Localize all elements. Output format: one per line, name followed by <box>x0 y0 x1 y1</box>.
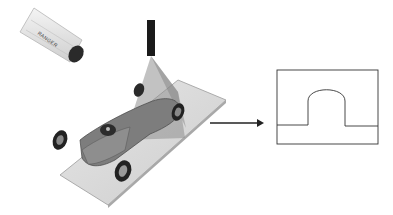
laser-sensor-icon <box>147 20 155 56</box>
camera-icon <box>20 8 87 65</box>
arrow-icon <box>210 119 264 127</box>
height-profile-plot <box>277 70 378 144</box>
scanner-diagram: RANGER <box>0 0 393 215</box>
diagram-canvas <box>0 0 393 215</box>
